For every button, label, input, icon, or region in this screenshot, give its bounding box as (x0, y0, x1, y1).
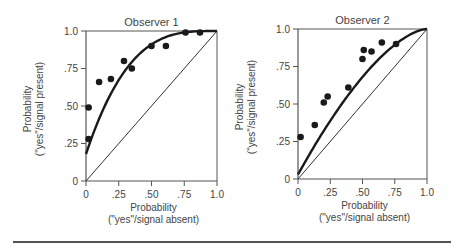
y-tick-label: .50 (276, 99, 290, 110)
data-point (321, 99, 328, 106)
data-point (359, 56, 366, 63)
data-point (197, 29, 204, 36)
y-axis-label: ("yes"/signal present) (246, 60, 257, 154)
data-point (182, 29, 189, 36)
roc-figure: Observer 10.25.50.751.00.25.50.751.0Prob… (0, 0, 461, 246)
y-tick-label: .75 (276, 61, 290, 72)
data-point (368, 48, 375, 55)
y-tick-label: .50 (64, 101, 78, 112)
y-tick-label: 0 (72, 176, 78, 187)
x-axis-label: ("yes"/signal absent) (319, 212, 410, 223)
x-tick-label: 1.0 (210, 189, 224, 200)
data-point (85, 136, 92, 143)
data-point (108, 76, 115, 83)
x-axis-label: Probability (130, 202, 177, 213)
data-point (345, 84, 352, 91)
chart-title: Observer 1 (124, 16, 178, 28)
chart-observer-1: Observer 10.25.50.751.00.25.50.751.0Prob… (22, 16, 224, 225)
x-tick-label: .50 (145, 189, 159, 200)
chart-title: Observer 2 (335, 14, 389, 26)
data-point (85, 104, 92, 111)
data-point (311, 122, 318, 129)
y-axis-label: Probability (234, 84, 245, 131)
data-point (121, 58, 128, 65)
data-point (360, 47, 367, 54)
x-tick-label: 1.0 (420, 187, 434, 198)
x-tick-label: .75 (388, 187, 402, 198)
data-point (96, 79, 103, 86)
x-tick-label: .75 (177, 189, 191, 200)
y-axis-label: Probability (22, 86, 33, 133)
x-axis-label: ("yes"/signal absent) (108, 214, 199, 225)
x-tick-label: 0 (295, 187, 301, 198)
data-point (324, 93, 331, 100)
y-tick-label: 0 (284, 174, 290, 185)
roc-curve (86, 31, 217, 154)
data-point (379, 39, 386, 46)
y-tick-label: .25 (276, 136, 290, 147)
data-point (148, 43, 155, 50)
chart-observer-2: Observer 20.25.50.751.00.25.50.751.0Prob… (234, 14, 434, 223)
x-tick-label: .50 (356, 187, 370, 198)
data-point (297, 134, 304, 141)
y-axis-label: ("yes"/signal present) (34, 62, 45, 156)
y-tick-label: .25 (64, 138, 78, 149)
y-tick-label: 1.0 (64, 26, 78, 37)
x-axis-label: Probability (341, 200, 388, 211)
x-tick-label: .25 (323, 187, 337, 198)
data-point (129, 65, 136, 72)
data-point (163, 43, 170, 50)
y-tick-label: .75 (64, 63, 78, 74)
x-tick-label: 0 (83, 189, 89, 200)
data-point (393, 41, 400, 48)
y-tick-label: 1.0 (276, 24, 290, 35)
x-tick-label: .25 (112, 189, 126, 200)
